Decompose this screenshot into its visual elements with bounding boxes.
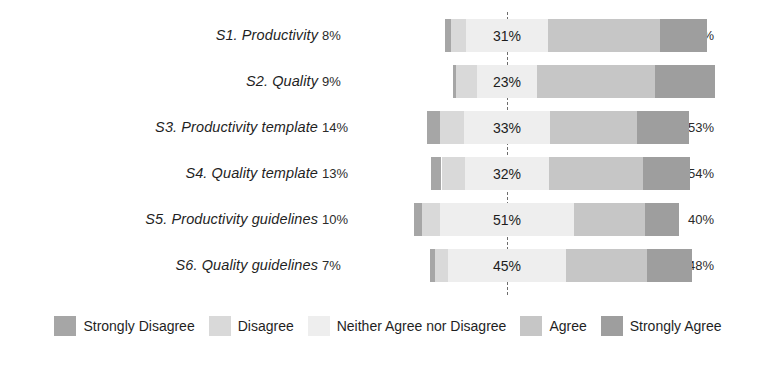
bar-segment-agree [537, 65, 655, 98]
bar-segment-disagree [456, 65, 477, 98]
bar-segment-agree [549, 157, 643, 190]
bar-segment-strongly-agree [655, 65, 715, 98]
likert-chart: S1. Productivity8%61%31%S2. Quality9%68%… [0, 0, 776, 366]
row-stacked-bar: 23% [0, 65, 776, 98]
legend-swatch-icon [308, 316, 330, 336]
bar-segment-neither-agree-nor-disagree [464, 111, 550, 144]
chart-row: S3. Productivity template14%53%33% [0, 104, 776, 150]
bar-segment-disagree [422, 203, 440, 236]
bar-segment-neither-agree-nor-disagree [477, 65, 537, 98]
bar-segment-neither-agree-nor-disagree [465, 157, 549, 190]
bar-segment-strongly-agree [645, 203, 679, 236]
chart-row: S4. Quality template13%54%32% [0, 150, 776, 196]
row-stacked-bar: 51% [0, 203, 776, 236]
legend-item-label: Disagree [238, 318, 294, 334]
chart-row: S6. Quality guidelines7%48%45% [0, 242, 776, 288]
bar-segment-agree [566, 249, 647, 282]
legend-item-label: Agree [549, 318, 586, 334]
legend-item-label: Neither Agree nor Disagree [337, 318, 507, 334]
row-stacked-bar: 33% [0, 111, 776, 144]
bar-segment-neither-agree-nor-disagree [440, 203, 574, 236]
bar-segment-strongly-agree [637, 111, 689, 144]
legend-item-label: Strongly Agree [630, 318, 722, 334]
bar-segment-disagree [440, 111, 464, 144]
bar-segment-disagree [435, 249, 448, 282]
chart-row: S2. Quality9%68%23% [0, 58, 776, 104]
chart-row: S5. Productivity guidelines10%40%51% [0, 196, 776, 242]
bar-segment-strongly-agree [643, 157, 690, 190]
bar-segment-agree [550, 111, 636, 144]
legend-swatch-icon [520, 316, 542, 336]
chart-row: S1. Productivity8%61%31% [0, 12, 776, 58]
chart-plot-area: S1. Productivity8%61%31%S2. Quality9%68%… [0, 0, 776, 302]
row-stacked-bar: 45% [0, 249, 776, 282]
bar-segment-disagree [451, 19, 467, 52]
legend-swatch-icon [54, 316, 76, 336]
legend-item[interactable]: Agree [520, 316, 586, 336]
bar-segment-strongly-disagree [414, 203, 422, 236]
bar-segment-strongly-disagree [427, 111, 440, 144]
bar-segment-disagree [442, 157, 466, 190]
bar-segment-strongly-agree [647, 249, 692, 282]
legend-swatch-icon [601, 316, 623, 336]
chart-legend: Strongly DisagreeDisagreeNeither Agree n… [0, 306, 776, 346]
bar-segment-strongly-agree [660, 19, 707, 52]
bar-segment-strongly-disagree [431, 157, 441, 190]
bar-segment-agree [574, 203, 645, 236]
legend-item[interactable]: Neither Agree nor Disagree [308, 316, 507, 336]
legend-item[interactable]: Strongly Disagree [54, 316, 194, 336]
legend-item[interactable]: Disagree [209, 316, 294, 336]
bar-segment-neither-agree-nor-disagree [448, 249, 566, 282]
bar-segment-agree [548, 19, 661, 52]
row-stacked-bar: 32% [0, 157, 776, 190]
row-stacked-bar: 31% [0, 19, 776, 52]
legend-item[interactable]: Strongly Agree [601, 316, 722, 336]
bar-segment-neither-agree-nor-disagree [466, 19, 547, 52]
legend-swatch-icon [209, 316, 231, 336]
legend-item-label: Strongly Disagree [83, 318, 194, 334]
